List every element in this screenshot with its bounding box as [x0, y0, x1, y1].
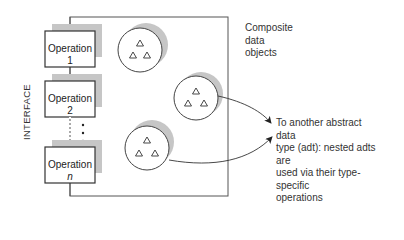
composite-object-2 — [174, 72, 223, 120]
arrow-from-object-3 — [169, 137, 272, 163]
composite-label-line-1: Composite — [245, 22, 315, 35]
ellipsis-dot-2 — [82, 132, 84, 134]
operation-1-text: Operation 1 — [48, 43, 92, 66]
operation-2-text: Operation 2 — [48, 93, 92, 116]
composite-object-1 — [118, 23, 168, 72]
interface-label: INTERFACE — [21, 84, 32, 140]
adt-annotation: To another abstract data type (adt): nes… — [276, 117, 380, 205]
adt-annotation-line-3: used via their type-specific — [276, 167, 380, 192]
operation-1-label: Operation 1 — [45, 43, 95, 67]
composite-label-line-3: objects — [245, 47, 315, 60]
arrow-from-object-2 — [218, 96, 271, 123]
composite-object-3-circle — [125, 126, 169, 170]
operation-n-text: Operation — [48, 159, 92, 170]
composite-data-objects-label: Composite data objects — [245, 22, 315, 60]
operation-2-label: Operation 2 — [45, 93, 95, 117]
adt-annotation-line-4: operations — [276, 192, 380, 205]
operation-n-label: Operation n — [45, 159, 95, 183]
adt-annotation-line-1: To another abstract data — [276, 117, 380, 142]
composite-object-1-circle — [118, 28, 162, 72]
composite-label-line-2: data — [245, 35, 315, 48]
ellipsis-dot-1 — [82, 124, 84, 126]
adt-annotation-line-2: type (adt): nested adts are — [276, 142, 380, 167]
operation-n-suffix: n — [67, 171, 73, 182]
composite-object-2-circle — [174, 76, 218, 120]
composite-object-3 — [125, 120, 174, 170]
